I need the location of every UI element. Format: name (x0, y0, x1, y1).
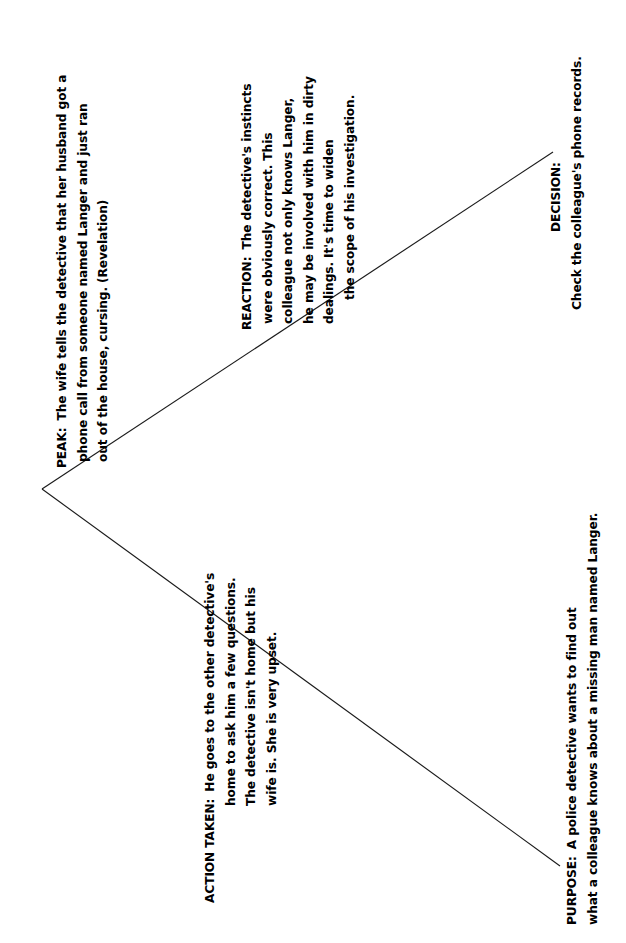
peak-line-1: PEAK:The wife tells the detective that h… (52, 75, 73, 468)
action-taken-text-4: wife is. She is very upset. (262, 573, 283, 903)
reaction-text-6: the scope of his investigation. (340, 76, 361, 330)
action-taken-text-3: The detective isn't home but his (241, 573, 262, 903)
reaction-text-3: colleague not only knows Langer, (278, 76, 299, 330)
purpose-text-1: A police detective wants to find out (565, 607, 579, 849)
purpose-text-2: what a colleague knows about a missing m… (583, 513, 604, 925)
reaction-label: REACTION: (240, 257, 254, 330)
action-taken-text-2: home to ask him a few questions. (221, 573, 242, 903)
decision-text-1: Check the colleague's phone records. (567, 56, 588, 310)
decision-label: DECISION: (546, 56, 567, 310)
purpose-label: PURPOSE: (565, 856, 579, 925)
peak-text-1: The wife tells the detective that her hu… (55, 75, 69, 421)
action-taken-label: ACTION TAKEN: (203, 799, 217, 903)
node-action-taken: ACTION TAKEN:He goes to the other detect… (200, 573, 282, 903)
node-peak: PEAK:The wife tells the detective that h… (52, 75, 114, 468)
node-purpose: PURPOSE:A police detective wants to find… (562, 513, 603, 925)
action-taken-line-1: ACTION TAKEN:He goes to the other detect… (200, 573, 221, 903)
reaction-line-1: REACTION:The detective's instincts (237, 76, 258, 330)
peak-text-3: out of the house, cursing. (Revelation) (93, 75, 114, 468)
peak-text-2: phone call from someone named Langer and… (73, 75, 94, 468)
node-decision: DECISION: Check the colleague's phone re… (546, 56, 587, 310)
action-taken-text-1: He goes to the other detective's (203, 573, 217, 792)
falling-action-line (42, 489, 560, 866)
reaction-text-4: he may be involved with him in dirty (299, 76, 320, 330)
reaction-text-2: were obviously correct. This (258, 76, 279, 330)
purpose-line-1: PURPOSE:A police detective wants to find… (562, 513, 583, 925)
node-reaction: REACTION:The detective's instincts were … (237, 76, 360, 330)
reaction-text-1: The detective's instincts (240, 84, 254, 250)
peak-label: PEAK: (55, 427, 69, 468)
reaction-text-5: dealings. It's time to widen (319, 76, 340, 330)
plot-diagram-page: PEAK:The wife tells the detective that h… (0, 0, 626, 943)
